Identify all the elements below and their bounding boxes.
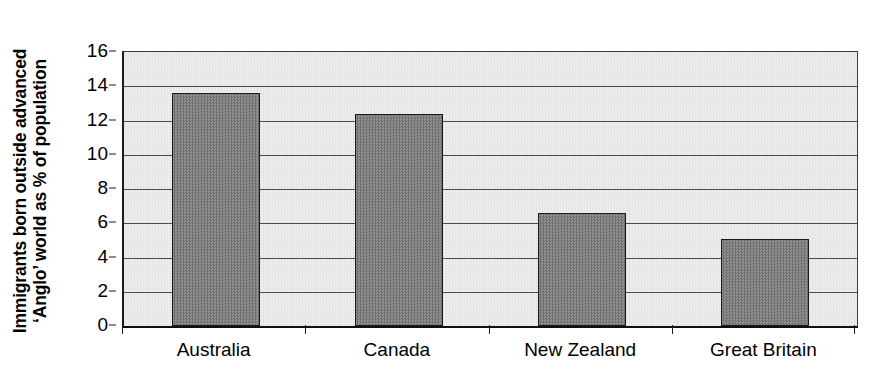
bar [355,114,443,326]
y-axis-tick-label: 2 [97,280,108,302]
y-axis-tick-label: 16 [87,40,108,62]
x-axis-category-label: Canada [364,339,431,361]
y-axis-tick-labels: 0246810121416 [62,51,116,325]
plot-area [122,51,858,328]
y-axis-title-line-1: Immigrants born outside advanced [11,48,31,332]
x-axis-category-label: New Zealand [524,339,636,361]
y-axis-tick-mark [109,51,116,52]
y-axis-tick-mark [109,153,116,154]
x-axis-category-label: Australia [177,339,251,361]
x-axis-category-label: Great Britain [710,339,817,361]
x-axis-tick-mark [854,325,855,334]
x-axis: AustraliaCanadaNew ZealandGreat Britain [122,325,855,381]
bar [538,213,626,326]
y-axis-tick-mark [109,325,116,326]
bar-chart-figure: Immigrants born outside advanced ‘Anglo’… [0,0,881,381]
y-axis-tick-mark [109,188,116,189]
y-axis-tick-mark [109,256,116,257]
x-axis-tick-mark [672,325,673,334]
y-axis-tick-label: 14 [87,74,108,96]
y-axis-title-line-2: ‘Anglo’ world as % of population [31,48,51,332]
y-axis-title: Immigrants born outside advanced ‘Anglo’… [0,0,62,381]
x-axis-tick-mark [122,325,123,334]
bar [721,239,809,326]
y-axis-tick-label: 0 [97,314,108,336]
y-axis-tick-mark [109,222,116,223]
y-axis-tick-mark [109,290,116,291]
y-axis-tick-mark [109,119,116,120]
x-axis-tick-mark [489,325,490,334]
bar [172,93,260,326]
y-axis-tick-label: 4 [97,246,108,268]
y-axis-tick-label: 6 [97,211,108,233]
y-axis-tick-label: 8 [97,177,108,199]
bar-series [124,52,857,326]
y-axis-tick-mark [109,85,116,86]
x-axis-tick-mark [305,325,306,334]
y-axis-title-text: Immigrants born outside advanced ‘Anglo’… [11,48,50,332]
y-axis-tick-label: 12 [87,109,108,131]
y-axis-tick-label: 10 [87,143,108,165]
